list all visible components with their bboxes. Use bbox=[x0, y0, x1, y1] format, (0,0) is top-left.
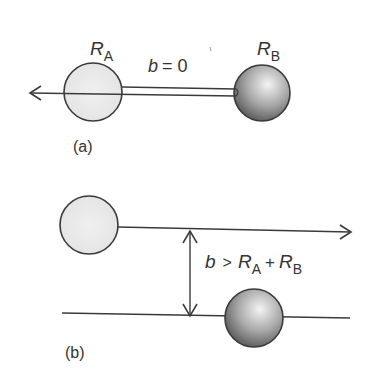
trajectory-b bbox=[62, 313, 350, 318]
sphere-b bbox=[234, 65, 290, 121]
trajectory-lower-line bbox=[30, 93, 236, 96]
print-speck bbox=[210, 47, 211, 51]
panel-a: RA RB b= 0 (a) bbox=[30, 38, 290, 155]
collision-impact-parameter-diagram: RA RB b= 0 (a) b>RA+RB (b) bbox=[0, 0, 370, 383]
caption-b: (b) bbox=[65, 344, 85, 361]
sphere-b-b bbox=[225, 289, 283, 347]
panel-b: b>RA+RB (b) bbox=[60, 196, 351, 361]
caption-a: (a) bbox=[73, 138, 93, 155]
trajectory-upper-line bbox=[122, 87, 236, 89]
label-b-greater-than-sum: b>RA+RB bbox=[205, 251, 302, 277]
label-r-a: RA bbox=[90, 38, 114, 64]
trajectory-a bbox=[118, 227, 350, 232]
sphere-a-b bbox=[60, 196, 118, 254]
sphere-a bbox=[64, 63, 122, 121]
label-b-equals-zero: b= 0 bbox=[148, 56, 188, 76]
label-r-b: RB bbox=[257, 38, 280, 64]
